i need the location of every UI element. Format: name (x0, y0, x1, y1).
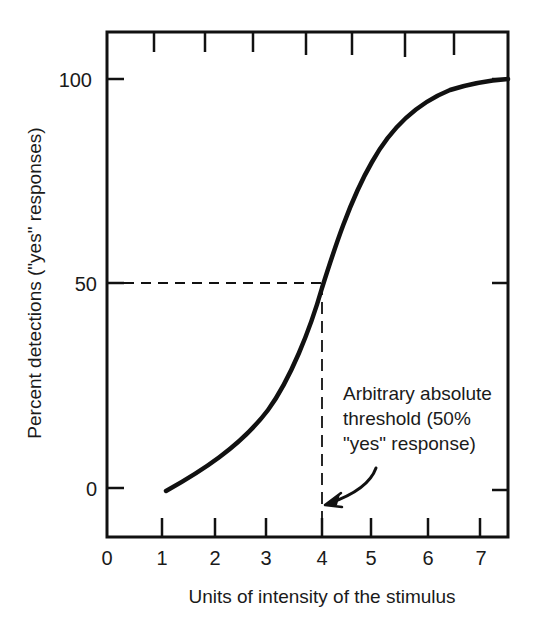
x-tick-0: 0 (101, 547, 112, 569)
y-tick-100: 100 (59, 69, 92, 91)
annotation-line-3: "yes" response) (343, 433, 476, 454)
x-tick-1: 1 (156, 547, 167, 569)
x-tick-labels: 0 1 2 3 4 5 6 7 (101, 547, 486, 569)
y-axis-label: Percent detections ("yes" responses) (24, 127, 45, 438)
threshold-annotation: Arbitrary absolute threshold (50% "yes" … (343, 383, 492, 454)
x-tick-3: 3 (260, 547, 271, 569)
top-ticks (154, 32, 454, 57)
psychometric-curve (166, 79, 508, 491)
x-tick-7: 7 (475, 547, 486, 569)
x-tick-2: 2 (209, 547, 220, 569)
left-ticks (107, 79, 124, 488)
x-tick-6: 6 (422, 547, 433, 569)
x-tick-4: 4 (316, 547, 327, 569)
right-ticks (492, 79, 508, 490)
x-tick-5: 5 (365, 547, 376, 569)
annotation-line-1: Arbitrary absolute (343, 383, 492, 404)
psychometric-chart: 100 50 0 0 1 2 3 4 5 6 7 Units of intens… (0, 0, 557, 619)
y-tick-50: 50 (75, 273, 97, 295)
x-axis-label: Units of intensity of the stimulus (188, 586, 455, 607)
plot-frame (107, 32, 508, 537)
bottom-ticks (162, 518, 480, 537)
annotation-arrow-icon (325, 468, 376, 507)
annotation-line-2: threshold (50% (343, 408, 471, 429)
y-tick-0: 0 (86, 478, 97, 500)
